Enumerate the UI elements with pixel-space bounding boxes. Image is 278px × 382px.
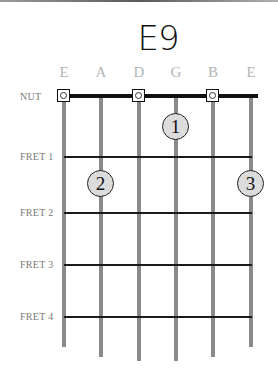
fret-line-1 <box>64 156 252 158</box>
chord-title: E9 <box>0 18 278 58</box>
open-string-marker-b <box>206 89 219 102</box>
string-label-a: A <box>91 64 111 81</box>
string-high-e <box>249 96 253 347</box>
fret-label-1: FRET 1 <box>20 151 54 162</box>
fret-label-3: FRET 3 <box>20 259 54 270</box>
open-circle-icon <box>60 92 67 99</box>
top-border <box>0 0 278 2</box>
nut-label: NUT <box>20 91 41 102</box>
open-string-marker-d <box>132 89 145 102</box>
fret-label-4: FRET 4 <box>20 311 54 322</box>
string-label-b: B <box>203 64 223 81</box>
open-circle-icon <box>209 92 216 99</box>
finger-marker-1: 1 <box>162 113 189 140</box>
fret-line-3 <box>64 264 252 266</box>
nut-bar <box>61 94 258 98</box>
finger-marker-2: 2 <box>87 170 114 197</box>
fret-line-2 <box>64 212 252 214</box>
fret-label-2: FRET 2 <box>20 207 54 218</box>
string-label-high-e: E <box>241 64 261 81</box>
open-string-marker-low-e <box>57 89 70 102</box>
string-label-d: D <box>129 64 149 81</box>
string-low-e <box>62 96 66 347</box>
string-label-g: G <box>166 64 186 81</box>
string-d <box>137 96 141 361</box>
finger-marker-3: 3 <box>237 170 264 197</box>
string-label-low-e: E <box>54 64 74 81</box>
fret-line-4 <box>64 316 252 318</box>
open-circle-icon <box>135 92 142 99</box>
